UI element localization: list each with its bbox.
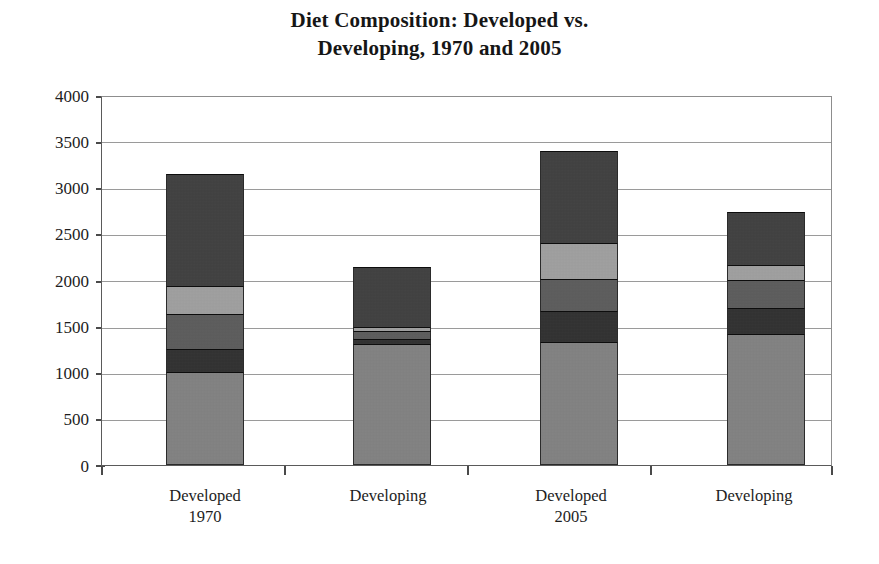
bar-segment	[727, 280, 805, 308]
x-axis-label-main-3: Developing	[716, 486, 793, 505]
x-axis-label-developing-2005: Developing	[664, 485, 844, 506]
segment-texture	[354, 328, 430, 332]
segment-texture	[541, 152, 617, 243]
x-tick-mark-1	[284, 466, 286, 475]
segment-texture	[541, 244, 617, 279]
y-tick-label-500: 500	[5, 411, 89, 428]
segment-texture	[167, 175, 243, 286]
bar-segment	[727, 265, 805, 280]
x-tick-mark-0	[101, 466, 103, 475]
x-axis-label-main-1: Developing	[350, 486, 427, 505]
bar-developing-1970[interactable]	[353, 267, 431, 465]
bar-segment	[166, 349, 244, 372]
chart-title-line-1: Diet Composition: Developed vs.	[0, 6, 879, 34]
y-tick-label-0: 0	[5, 458, 89, 475]
y-tick-label-3000: 3000	[5, 180, 89, 197]
bar-developed-2005[interactable]	[540, 151, 618, 466]
x-axis-label-main-0: Developed	[169, 486, 240, 505]
segment-texture	[167, 373, 243, 464]
segment-texture	[354, 345, 430, 464]
bar-segment	[166, 314, 244, 349]
segment-texture	[728, 335, 804, 464]
segment-texture	[541, 343, 617, 464]
bar-segment	[540, 151, 618, 243]
segment-texture	[728, 266, 804, 280]
bar-segment	[540, 342, 618, 465]
x-tick-mark-3	[650, 466, 652, 475]
y-tick-label-4000: 4000	[5, 88, 89, 105]
segment-texture	[728, 309, 804, 333]
y-tick-label-2500: 2500	[5, 226, 89, 243]
x-axis-label-sub-2: 2005	[481, 506, 661, 527]
y-tick-label-1500: 1500	[5, 319, 89, 336]
segment-texture	[167, 287, 243, 314]
segment-texture	[167, 350, 243, 372]
bar-segment	[353, 339, 431, 344]
segment-texture	[354, 340, 430, 344]
y-tick-label-3500: 3500	[5, 134, 89, 151]
y-tick-label-2000: 2000	[5, 273, 89, 290]
bar-segment	[727, 308, 805, 333]
bar-segment	[540, 279, 618, 312]
plot-area	[101, 96, 832, 466]
chart-title: Diet Composition: Developed vs. Developi…	[0, 6, 879, 62]
x-axis-label-main-2: Developed	[535, 486, 606, 505]
bar-segment	[353, 267, 431, 327]
x-axis-label-developed-1970: Developed 1970	[115, 485, 295, 527]
segment-texture	[541, 312, 617, 342]
bar-segment	[353, 344, 431, 465]
x-axis-label-developing-1970: Developing	[298, 485, 478, 506]
bar-developing-2005[interactable]	[727, 212, 805, 465]
bar-segment	[166, 174, 244, 286]
gridline-3500	[102, 142, 831, 143]
bar-segment	[166, 372, 244, 465]
bar-segment	[727, 212, 805, 265]
segment-texture	[728, 281, 804, 308]
segment-texture	[167, 315, 243, 349]
bar-segment	[727, 334, 805, 465]
bar-segment	[540, 243, 618, 279]
bar-developed-1970[interactable]	[166, 174, 244, 465]
x-axis-label-sub-0: 1970	[115, 506, 295, 527]
bar-segment	[353, 331, 431, 338]
y-tick-label-1000: 1000	[5, 365, 89, 382]
segment-texture	[728, 213, 804, 265]
bar-segment	[540, 311, 618, 342]
chart-container: Diet Composition: Developed vs. Developi…	[0, 0, 879, 564]
bar-segment	[353, 327, 431, 332]
x-tick-mark-4	[831, 466, 833, 475]
segment-texture	[354, 332, 430, 338]
segment-texture	[354, 268, 430, 327]
chart-title-line-2: Developing, 1970 and 2005	[0, 34, 879, 62]
segment-texture	[541, 280, 617, 312]
x-axis-label-developed-2005: Developed 2005	[481, 485, 661, 527]
bar-segment	[166, 286, 244, 314]
x-tick-mark-2	[467, 466, 469, 475]
